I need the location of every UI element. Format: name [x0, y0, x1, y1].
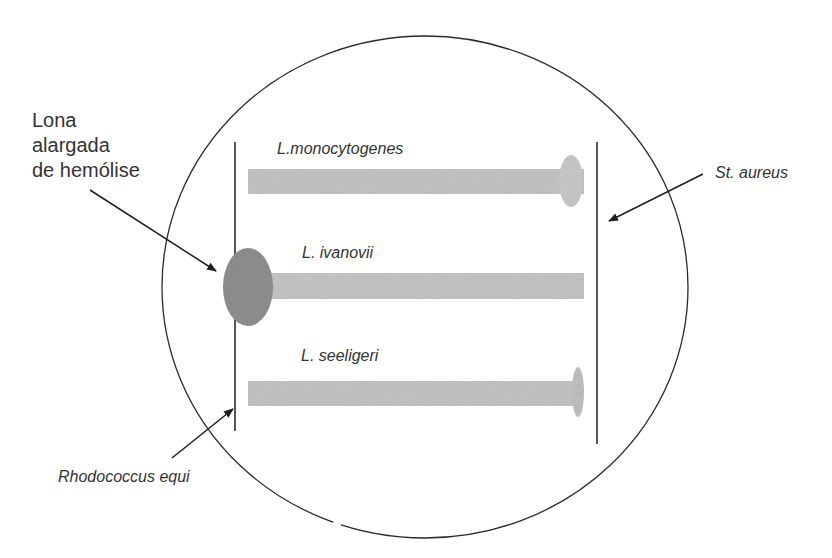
st-aureus-label: St. aureus [715, 163, 788, 182]
hemolysis-zone-arrow [90, 190, 216, 271]
l-monocytogenes-hemolysis-zone [559, 155, 583, 207]
st-aureus-arrow [609, 174, 703, 221]
l-seeligeri-label: L. seeligeri [301, 346, 378, 365]
hemolysis-zone-label-line-2: alargada [32, 133, 140, 158]
l-monocytogenes-label: L.monocytogenes [277, 139, 403, 158]
l-monocytogenes-streak [248, 155, 584, 207]
plate-gap-2 [490, 521, 499, 529]
l-ivanovii-streak [223, 248, 584, 326]
l-ivanovii-label: L. ivanovii [302, 243, 373, 262]
plate-gap-1 [332, 520, 342, 528]
hemolysis-zone-label: Lona alargada de hemólise [32, 108, 140, 183]
camp-test-diagram: Lona alargada de hemólise L.monocytogene… [0, 0, 832, 558]
l-seeligeri-streak [248, 367, 584, 417]
l-ivanovii-hemolysis-zone [223, 248, 273, 326]
hemolysis-zone-label-line-1: Lona [32, 108, 140, 133]
rhodococcus-equi-label: Rhodococcus equi [58, 467, 190, 486]
hemolysis-zone-label-line-3: de hemólise [32, 158, 140, 183]
l-seeligeri-hemolysis-zone [572, 367, 584, 417]
rhodococcus-equi-arrow [172, 409, 233, 458]
